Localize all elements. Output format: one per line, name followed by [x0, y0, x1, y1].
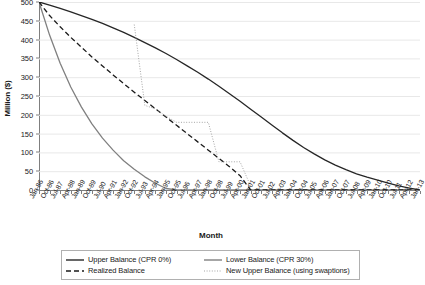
legend-row: Realized Balance New Upper Balance (usin…	[66, 265, 355, 276]
y-axis-tick-mark	[36, 58, 39, 59]
y-axis-tick-mark	[36, 77, 39, 78]
legend-item-realized-balance: Realized Balance	[66, 266, 204, 275]
x-axis-tick-mark	[420, 191, 421, 194]
legend-item-new-upper-balance: New Upper Balance (using swaptions)	[204, 266, 354, 275]
y-axis-title-label: Million ($)	[3, 80, 12, 116]
legend-item-lower-balance: Lower Balance (CPR 30%)	[204, 255, 354, 264]
x-axis-title-label: Month	[199, 231, 223, 240]
y-axis-tick-label: 50	[25, 167, 33, 176]
legend-line-sample-solid-gray-icon	[204, 256, 222, 264]
y-axis-tick-label: 350	[21, 54, 33, 63]
y-axis-tick-mark	[36, 96, 39, 97]
legend-label: New Upper Balance (using swaptions)	[226, 266, 350, 275]
legend-line-sample-dashed-icon	[66, 267, 84, 275]
legend-row: Upper Balance (CPR 0%) Lower Balance (CP…	[66, 254, 355, 265]
y-axis-title: Million ($)	[0, 0, 14, 196]
y-axis-tick-mark	[36, 114, 39, 115]
x-axis-tick-labels: Jan-86Oct-86Jul-87Apr-88Jan-89Oct-89Jul-…	[14, 196, 420, 230]
legend-label: Upper Balance (CPR 0%)	[88, 255, 171, 264]
y-axis-tick-mark	[36, 152, 39, 153]
legend-label: Lower Balance (CPR 30%)	[226, 255, 313, 264]
chart-legend: Upper Balance (CPR 0%) Lower Balance (CP…	[61, 250, 360, 280]
y-axis-tick-mark	[36, 20, 39, 21]
y-axis-tick-label: 450	[21, 16, 33, 25]
y-axis-tick-label: 200	[21, 110, 33, 119]
legend-item-upper-balance: Upper Balance (CPR 0%)	[66, 255, 204, 264]
y-axis-tick-label: 100	[21, 148, 33, 157]
y-axis-tick-mark	[36, 133, 39, 134]
y-axis-tick-label: 250	[21, 92, 33, 101]
x-axis-title: Month	[0, 231, 422, 240]
y-axis-tick-label: 400	[21, 35, 33, 44]
plot-area	[39, 2, 420, 190]
y-axis-tick-mark	[36, 2, 39, 3]
plot-wrapper: 050100150200250300350400450500	[14, 2, 420, 196]
y-axis-tick-label: 300	[21, 73, 33, 82]
y-axis-tick-mark	[36, 171, 39, 172]
y-axis-tick-label: 150	[21, 129, 33, 138]
legend-line-sample-dotted-icon	[204, 267, 222, 275]
legend-label: Realized Balance	[88, 266, 145, 275]
chart-canvas	[39, 2, 420, 190]
y-axis-tick-label: 500	[21, 0, 33, 7]
legend-line-sample-solid-dark-icon	[66, 256, 84, 264]
y-axis-tick-labels: 050100150200250300350400450500	[14, 2, 36, 196]
y-axis-tick-mark	[36, 39, 39, 40]
